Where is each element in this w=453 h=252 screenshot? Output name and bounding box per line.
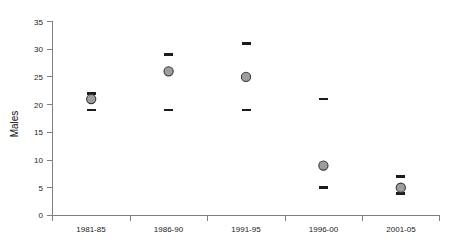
y-tick-label-25: 25 [34, 73, 43, 82]
y-tick-label-5: 5 [39, 184, 44, 193]
ci-upper-cap [242, 42, 251, 45]
x-axis-tick-labels: 1981-85 1986-90 1991-95 1996-00 2001-05 [76, 225, 416, 234]
data-points-layer [87, 42, 406, 194]
point-marker [396, 183, 405, 192]
ci-upper-cap [396, 175, 405, 178]
y-axis-tick-labels: 35 30 25 20 15 10 5 0 [34, 18, 43, 221]
ci-lower-cap [242, 109, 251, 112]
y-axis-title: Males [9, 111, 20, 138]
ci-upper-cap [319, 98, 328, 101]
y-axis-ticks [47, 22, 53, 216]
y-tick-label-10: 10 [34, 156, 43, 165]
point-marker [87, 94, 96, 103]
data-group-1996-00 [319, 98, 328, 189]
x-tick-label-2001-05: 2001-05 [386, 225, 416, 234]
x-axis-ticks [53, 216, 440, 222]
y-tick-label-30: 30 [34, 45, 43, 54]
x-tick-label-1996-00: 1996-00 [309, 225, 339, 234]
x-tick-label-1991-95: 1991-95 [231, 225, 261, 234]
point-marker [319, 161, 328, 170]
ci-upper-cap [164, 53, 173, 56]
ci-lower-cap [319, 186, 328, 189]
ci-lower-cap [164, 109, 173, 112]
point-marker [241, 72, 250, 81]
scatter-chart-svg: 35 30 25 20 15 10 5 0 Males 1981-85 1986… [0, 0, 453, 252]
data-group-1991-95 [241, 42, 250, 111]
data-group-2001-05 [396, 175, 405, 194]
chart-container: 35 30 25 20 15 10 5 0 Males 1981-85 1986… [0, 0, 453, 252]
data-group-1981-85 [87, 92, 96, 111]
y-tick-label-20: 20 [34, 101, 43, 110]
y-tick-label-0: 0 [39, 211, 44, 220]
y-tick-label-35: 35 [34, 18, 43, 27]
x-tick-label-1981-85: 1981-85 [76, 225, 106, 234]
ci-lower-cap [87, 109, 96, 112]
y-tick-label-15: 15 [34, 128, 43, 137]
data-group-1986-90 [164, 53, 173, 111]
point-marker [164, 67, 173, 76]
x-tick-label-1986-90: 1986-90 [154, 225, 184, 234]
